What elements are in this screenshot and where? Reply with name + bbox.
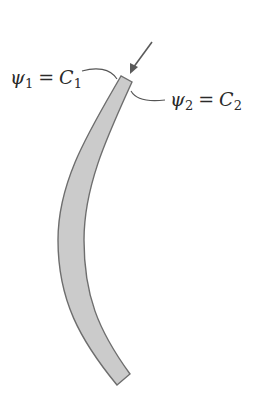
leader-line-psi1 [82, 69, 117, 79]
force-arrow-icon [130, 42, 152, 74]
leader-line-psi2 [131, 91, 165, 101]
label-psi2: ψ2=C2 [170, 88, 242, 113]
label-psi1: ψ1=C1 [10, 66, 82, 91]
streamtube-diagram: ψ1=C1 ψ2=C2 [0, 0, 270, 407]
streamtube-band [58, 76, 132, 385]
